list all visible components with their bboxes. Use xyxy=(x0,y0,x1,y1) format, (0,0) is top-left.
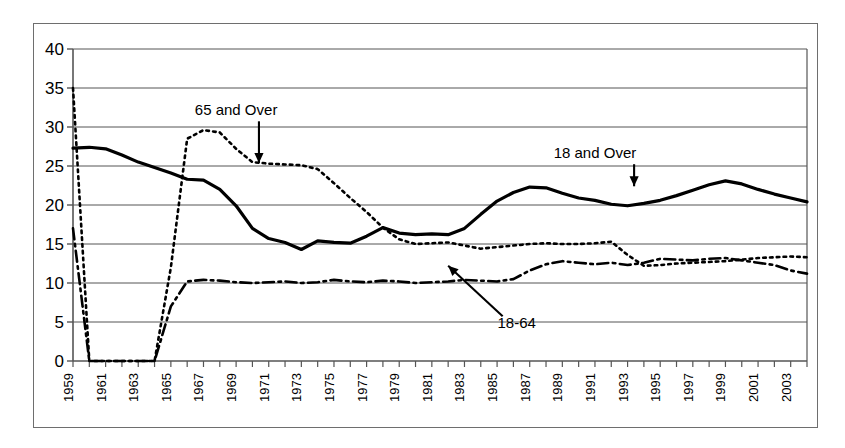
x-axis-tick-label: 2001 xyxy=(746,373,761,402)
x-axis-tick-label: 1991 xyxy=(583,373,598,402)
annotation-label: 65 and Over xyxy=(195,101,278,118)
series-line-65-and-over xyxy=(73,88,807,361)
x-axis-tick-label: 1985 xyxy=(485,373,500,402)
x-axis-tick-label: 1977 xyxy=(355,373,370,402)
x-axis-tick-label: 1961 xyxy=(94,373,109,402)
y-axis-tick-label: 10 xyxy=(45,274,64,293)
y-axis-tick-label: 35 xyxy=(45,79,64,98)
x-axis-tick-label: 1989 xyxy=(550,373,565,402)
y-axis-tick-label: 20 xyxy=(45,196,64,215)
annotation-arrow-shaft xyxy=(448,266,503,316)
x-axis-tick-label: 1971 xyxy=(257,373,272,402)
x-axis-tick-label: 1963 xyxy=(126,373,141,402)
x-axis-tick-label: 1965 xyxy=(159,373,174,402)
y-axis-tick-label: 30 xyxy=(45,118,64,137)
line-chart: 0510152025303540195919611963196519671969… xyxy=(34,24,819,429)
y-axis-tick-label: 0 xyxy=(55,352,64,371)
x-axis-tick-label: 1987 xyxy=(518,373,533,402)
annotation-label: 18 and Over xyxy=(554,144,637,161)
y-axis-tick-label: 40 xyxy=(45,40,64,59)
series-line-18-64 xyxy=(73,228,807,361)
y-axis-tick-label: 5 xyxy=(55,313,64,332)
y-axis-tick-label: 15 xyxy=(45,235,64,254)
x-axis-tick-label: 1995 xyxy=(648,373,663,402)
x-axis-tick-label: 1993 xyxy=(616,373,631,402)
x-axis-tick-label: 1959 xyxy=(61,373,76,402)
x-axis-tick-label: 2003 xyxy=(779,373,794,402)
x-axis-tick-label: 1999 xyxy=(713,373,728,402)
x-axis-tick-label: 1973 xyxy=(289,373,304,402)
x-axis-tick-label: 1975 xyxy=(322,373,337,402)
x-axis-tick-label: 1997 xyxy=(681,373,696,402)
x-axis-tick-label: 1967 xyxy=(191,373,206,402)
x-axis-tick-label: 1969 xyxy=(224,373,239,402)
x-axis-tick-label: 1979 xyxy=(387,373,402,402)
x-axis-tick-label: 1981 xyxy=(420,373,435,402)
annotation-arrow-head xyxy=(630,176,639,186)
y-axis-tick-label: 25 xyxy=(45,157,64,176)
chart-figure-border: 0510152025303540195919611963196519671969… xyxy=(33,23,818,428)
x-axis-tick-label: 1983 xyxy=(452,373,467,402)
annotation-label: 18-64 xyxy=(497,314,535,331)
